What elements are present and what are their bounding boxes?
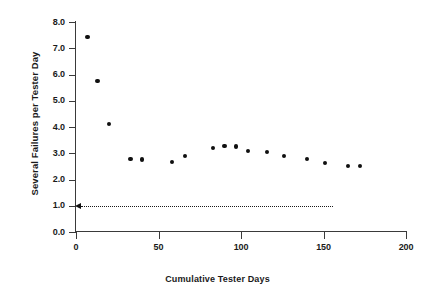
y-tick-mark — [69, 127, 76, 128]
data-point — [358, 164, 362, 168]
data-point — [107, 122, 111, 126]
data-point — [282, 154, 286, 158]
y-tick-mark — [69, 101, 76, 102]
data-point — [140, 157, 144, 161]
y-tick-mark — [69, 232, 76, 233]
x-tick-label: 100 — [221, 243, 261, 252]
data-point — [183, 154, 187, 158]
data-point — [323, 161, 327, 165]
data-point — [346, 164, 350, 168]
scatter-chart: 0.01.02.03.04.05.06.07.08.0 050100150200… — [0, 0, 435, 299]
data-point — [246, 149, 250, 153]
x-tick-label: 200 — [386, 243, 426, 252]
plot-area — [76, 22, 406, 232]
data-point — [211, 146, 215, 150]
y-tick-mark — [69, 22, 76, 23]
x-tick-label: 0 — [56, 243, 96, 252]
x-tick-mark — [159, 232, 160, 239]
data-point — [265, 150, 269, 154]
x-tick-mark — [324, 232, 325, 239]
x-tick-label: 50 — [139, 243, 179, 252]
data-point — [234, 144, 238, 148]
y-tick-mark — [69, 180, 76, 181]
data-point — [305, 157, 309, 161]
y-tick-mark — [69, 153, 76, 154]
threshold-dotted-line — [81, 206, 333, 207]
data-point — [95, 79, 99, 83]
x-tick-mark — [406, 232, 407, 239]
y-tick-mark — [69, 48, 76, 49]
x-tick-label: 150 — [304, 243, 344, 252]
y-tick-mark — [69, 75, 76, 76]
data-point — [222, 144, 226, 148]
data-point — [85, 35, 89, 39]
data-point — [128, 157, 132, 161]
threshold-left-arrow-icon — [75, 203, 81, 209]
y-axis-title: Several Failures per Tester Day — [29, 14, 40, 234]
x-tick-mark — [76, 232, 77, 239]
data-point — [170, 160, 174, 164]
x-tick-mark — [241, 232, 242, 239]
x-axis-title: Cumulative Tester Days — [0, 274, 435, 284]
